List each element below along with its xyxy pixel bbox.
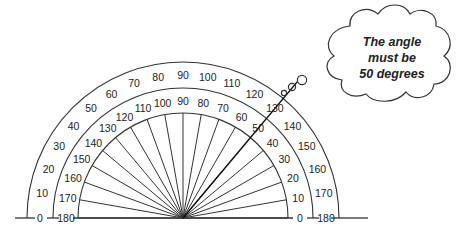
protractor-canvas: 0102030405060708090100110120130140150160… [0, 0, 463, 234]
inner-label-120: 120 [116, 111, 134, 123]
outer-label-10: 10 [36, 187, 48, 199]
inner-label-180: 180 [57, 212, 75, 224]
outer-label-170: 170 [315, 187, 333, 199]
inner-label-150: 150 [73, 153, 91, 165]
thought-line-3: 50 degrees [359, 67, 424, 81]
inner-label-70: 70 [217, 102, 229, 114]
inner-label-0: 0 [297, 212, 303, 224]
thought-line-2: must be [368, 51, 416, 65]
inner-label-170: 170 [59, 192, 77, 204]
inner-label-110: 110 [135, 102, 152, 114]
outer-label-110: 110 [224, 77, 241, 89]
inner-label-10: 10 [292, 192, 304, 204]
inner-label-160: 160 [64, 172, 82, 184]
inner-label-100: 100 [154, 97, 172, 109]
thought-line-1: The angle [363, 35, 421, 49]
inner-label-140: 140 [85, 137, 103, 149]
outer-label-60: 60 [106, 88, 118, 100]
inner-label-80: 80 [197, 97, 209, 109]
outer-label-100: 100 [199, 71, 217, 83]
outer-label-40: 40 [68, 120, 80, 132]
outer-label-140: 140 [284, 120, 302, 132]
outer-label-90: 90 [177, 69, 189, 81]
outer-label-20: 20 [43, 163, 55, 175]
thought-dot-small [281, 90, 286, 95]
outer-label-0: 0 [37, 212, 43, 224]
inner-label-130: 130 [99, 122, 117, 134]
outer-label-80: 80 [152, 71, 164, 83]
outer-label-50: 50 [85, 102, 97, 114]
thought-dot-large [297, 75, 306, 84]
thought-bubble: The angle must be 50 degrees [281, 5, 450, 101]
outer-label-150: 150 [298, 140, 316, 152]
outer-label-180: 180 [317, 212, 335, 224]
protractor-diagram: 0102030405060708090100110120130140150160… [0, 0, 463, 234]
outer-label-30: 30 [53, 140, 65, 152]
outer-label-70: 70 [128, 77, 140, 89]
outer-label-160: 160 [309, 163, 327, 175]
inner-label-20: 20 [287, 172, 299, 184]
inner-label-60: 60 [236, 111, 248, 123]
inner-label-30: 30 [278, 153, 290, 165]
outer-label-120: 120 [246, 88, 264, 100]
inner-label-40: 40 [267, 137, 279, 149]
inner-label-90: 90 [177, 95, 189, 107]
